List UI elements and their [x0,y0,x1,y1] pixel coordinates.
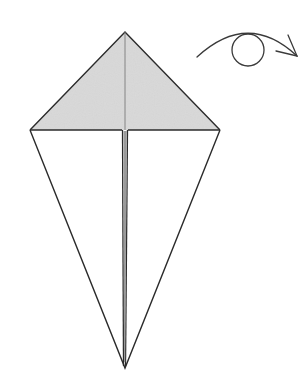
turn-over-symbol [197,33,297,66]
diagram-canvas [0,0,305,387]
turn-over-circle-icon [232,34,264,66]
turn-over-arc-icon [197,33,297,57]
origami-diagram: Origami kite base - turn over [0,0,305,387]
